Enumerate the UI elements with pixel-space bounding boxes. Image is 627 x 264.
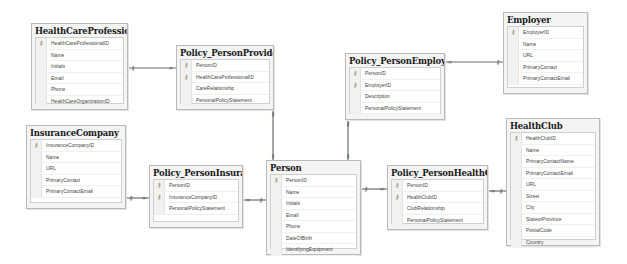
- column-row[interactable]: ⚷PersonID: [181, 60, 269, 72]
- column-row[interactable]: CareRelationship: [181, 83, 269, 95]
- row-selector[interactable]: [271, 210, 282, 221]
- column-row[interactable]: Initials: [36, 61, 123, 73]
- column-row[interactable]: URL: [511, 179, 595, 191]
- column-row[interactable]: PersonalPolicyStatement: [154, 203, 238, 215]
- row-selector[interactable]: ⚷: [508, 27, 519, 38]
- row-selector[interactable]: [181, 95, 192, 106]
- row-selector[interactable]: [511, 168, 522, 179]
- column-row[interactable]: PrimaryContactName: [511, 156, 595, 168]
- row-selector[interactable]: ⚷: [154, 192, 165, 203]
- row-selector[interactable]: ⚷: [350, 68, 361, 79]
- column-row[interactable]: PersonalPolicyStatement: [392, 215, 483, 227]
- row-selector[interactable]: ⚷: [392, 180, 403, 191]
- row-selector[interactable]: ⚷: [31, 140, 42, 151]
- column-row[interactable]: Email: [36, 73, 123, 85]
- column-row[interactable]: Name: [511, 145, 595, 157]
- table-employer[interactable]: Employer⚷EmployerIDNameURLPrimaryContact…: [503, 12, 588, 94]
- row-selector[interactable]: [511, 214, 522, 225]
- column-row[interactable]: Street: [511, 191, 595, 203]
- relationship-line[interactable]: ∞⚷: [488, 187, 506, 194]
- column-row[interactable]: PrimaryContact: [31, 175, 121, 187]
- table-policy-personemployer[interactable]: Policy_PersonEmployer⚷PersonID⚷EmployerI…: [345, 53, 445, 120]
- row-selector[interactable]: [508, 50, 519, 61]
- column-row[interactable]: URL: [31, 163, 121, 175]
- column-row[interactable]: ClubRelationship: [392, 203, 483, 215]
- row-selector[interactable]: ⚷: [154, 180, 165, 191]
- row-selector[interactable]: ⚷: [392, 192, 403, 203]
- row-selector[interactable]: [36, 96, 47, 107]
- table-policy-personhealthclub[interactable]: Policy_PersonHealthClub⚷PersonID⚷HealthC…: [387, 165, 488, 230]
- column-row[interactable]: DateOfBirth: [271, 233, 356, 245]
- column-row[interactable]: Phone: [271, 221, 356, 233]
- row-selector[interactable]: [350, 103, 361, 114]
- row-selector[interactable]: [511, 145, 522, 156]
- column-row[interactable]: PrimaryContact: [508, 62, 583, 74]
- row-selector[interactable]: [271, 198, 282, 209]
- row-selector[interactable]: ⚷: [511, 133, 522, 144]
- table-healthcareprofessional[interactable]: HealthCareProfessional⚷HealthCareProfess…: [31, 23, 128, 110]
- column-row[interactable]: URL: [508, 50, 583, 62]
- column-row[interactable]: ⚷HealthClubID: [511, 133, 595, 145]
- column-row[interactable]: Phone: [36, 84, 123, 96]
- row-selector[interactable]: [31, 163, 42, 174]
- row-selector[interactable]: [181, 83, 192, 94]
- row-selector[interactable]: [508, 73, 519, 84]
- column-row[interactable]: Initials: [271, 198, 356, 210]
- table-healthclub[interactable]: HealthClub⚷HealthClubIDNamePrimaryContac…: [506, 118, 600, 246]
- row-selector[interactable]: [392, 215, 403, 226]
- relationship-line[interactable]: ∞⚷: [128, 64, 176, 71]
- table-person[interactable]: Person⚷PersonIDNameInitialsEmailPhoneDat…: [266, 160, 361, 255]
- row-selector[interactable]: [271, 244, 282, 255]
- row-selector[interactable]: [36, 61, 47, 72]
- row-selector[interactable]: [271, 233, 282, 244]
- row-selector[interactable]: ⚷: [181, 72, 192, 83]
- row-selector[interactable]: [508, 39, 519, 50]
- row-selector[interactable]: ⚷: [350, 80, 361, 91]
- row-selector[interactable]: [511, 237, 522, 248]
- column-row[interactable]: Country: [511, 237, 595, 249]
- row-selector[interactable]: [271, 187, 282, 198]
- column-row[interactable]: StateorProvince: [511, 214, 595, 226]
- column-row[interactable]: Name: [36, 50, 123, 62]
- relationship-line[interactable]: ⚷⚷: [271, 110, 275, 160]
- table-policy-personinsurance[interactable]: Policy_PersonInsurance⚷PersonID⚷Insuranc…: [149, 165, 243, 228]
- row-selector[interactable]: ⚷: [271, 175, 282, 186]
- table-policy-personprovider[interactable]: Policy_PersonProvider⚷PersonID⚷HealthCar…: [176, 45, 274, 110]
- column-row[interactable]: PersonalPolicyStatement: [181, 95, 269, 107]
- row-selector[interactable]: [36, 84, 47, 95]
- column-row[interactable]: PostalCode: [511, 225, 595, 237]
- column-row[interactable]: Name: [31, 152, 121, 164]
- row-selector[interactable]: ⚷: [36, 38, 47, 49]
- column-row[interactable]: ⚷PersonID: [271, 175, 356, 187]
- column-row[interactable]: ⚷PersonID: [154, 180, 238, 192]
- relationship-line[interactable]: ∞⚷: [243, 196, 266, 203]
- column-row[interactable]: Description: [350, 91, 440, 103]
- row-selector[interactable]: [350, 91, 361, 102]
- column-row[interactable]: IdentifyingEquipment: [271, 244, 356, 256]
- relationship-line[interactable]: ∞⚷: [126, 194, 149, 201]
- column-row[interactable]: ⚷HealthClubID: [392, 192, 483, 204]
- row-selector[interactable]: ⚷: [181, 60, 192, 71]
- table-insurancecompany[interactable]: InsuranceCompany⚷InsuranceCompanyIDNameU…: [26, 125, 126, 209]
- row-selector[interactable]: [508, 62, 519, 73]
- column-row[interactable]: ⚷InsuranceCompanyID: [31, 140, 121, 152]
- row-selector[interactable]: [511, 225, 522, 236]
- database-diagram-canvas[interactable]: ∞⚷⚷⚷∞⚷⚷⚷∞⚷∞⚷∞⚷∞⚷ HealthCareProfessional⚷…: [0, 0, 627, 264]
- row-selector[interactable]: [154, 203, 165, 214]
- column-row[interactable]: PrimaryContactEmail: [508, 73, 583, 85]
- row-selector[interactable]: [31, 152, 42, 163]
- row-selector[interactable]: [36, 73, 47, 84]
- row-selector[interactable]: [31, 175, 42, 186]
- column-row[interactable]: Name: [508, 39, 583, 51]
- column-row[interactable]: HealthCareOrganizationID: [36, 96, 123, 108]
- row-selector[interactable]: [511, 179, 522, 190]
- column-row[interactable]: ⚷HealthCareProfessionalID: [181, 72, 269, 84]
- column-row[interactable]: Name: [271, 187, 356, 199]
- row-selector[interactable]: [511, 202, 522, 213]
- relationship-line[interactable]: ⚷⚷: [346, 120, 350, 160]
- column-row[interactable]: ⚷PersonID: [350, 68, 440, 80]
- row-selector[interactable]: [36, 50, 47, 61]
- row-selector[interactable]: [271, 221, 282, 232]
- column-row[interactable]: ⚷InsuranceCompanyID: [154, 192, 238, 204]
- column-row[interactable]: Email: [271, 210, 356, 222]
